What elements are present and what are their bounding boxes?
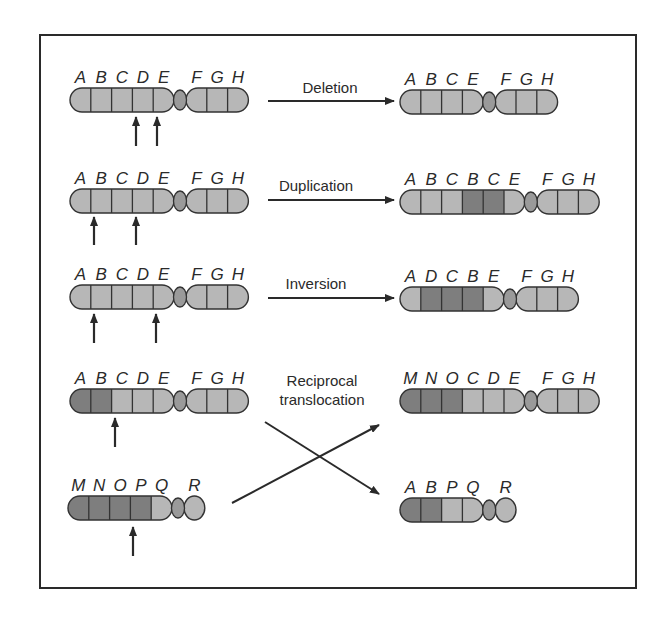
gene-label: E bbox=[158, 369, 170, 388]
gene-label: F bbox=[191, 265, 203, 284]
gene-label: F bbox=[191, 369, 203, 388]
chromosome-duplication-after: ABCBCEFGH bbox=[400, 170, 600, 214]
operation-label-inversion: Inversion bbox=[286, 275, 347, 292]
gene-label: E bbox=[509, 369, 521, 388]
gene-label: C bbox=[446, 267, 459, 286]
gene-label: F bbox=[542, 170, 554, 189]
gene-label: P bbox=[135, 476, 147, 495]
gene-label: A bbox=[404, 478, 416, 497]
chromosome-translocation-after-2: ABPQR bbox=[400, 478, 517, 522]
gene-label: N bbox=[425, 369, 438, 388]
gene-label: H bbox=[583, 369, 596, 388]
gene-label: M bbox=[71, 476, 86, 495]
gene-label: A bbox=[404, 267, 416, 286]
gene-label: G bbox=[520, 70, 533, 89]
gene-label: A bbox=[74, 68, 86, 87]
chromosome-duplication-before: ABCDEFGH bbox=[70, 169, 249, 213]
gene-label: R bbox=[188, 476, 200, 495]
gene-label: A bbox=[404, 70, 416, 89]
gene-label: D bbox=[137, 68, 149, 87]
gene-label: D bbox=[137, 169, 149, 188]
gene-label: F bbox=[500, 70, 512, 89]
gene-label: M bbox=[403, 369, 418, 388]
gene-label: O bbox=[445, 369, 458, 388]
break-arrow bbox=[136, 117, 157, 146]
row-reciprocal-translocation: ABCDEFGH Reciprocal translocation MNOPQR… bbox=[68, 369, 600, 556]
chromosome-translocation-after-1: MNOCDEFGH bbox=[400, 369, 600, 413]
break-arrow bbox=[94, 217, 136, 245]
crossing-arrow-down-icon bbox=[265, 422, 379, 494]
gene-label: C bbox=[446, 170, 459, 189]
gene-label: F bbox=[191, 68, 203, 87]
gene-label: E bbox=[467, 70, 479, 89]
operation-label-line-2: translocation bbox=[279, 391, 364, 408]
chromosome-translocation-before-1: ABCDEFGH bbox=[70, 369, 249, 413]
gene-label: B bbox=[467, 170, 478, 189]
gene-label: B bbox=[96, 68, 107, 87]
gene-label: E bbox=[158, 68, 170, 87]
gene-label: A bbox=[74, 369, 86, 388]
gene-label: H bbox=[232, 265, 245, 284]
rearrangement-diagram: ABCDEFGH Deletion ABCEFGH ABCDEFGH Dupli… bbox=[0, 0, 668, 621]
gene-label: A bbox=[74, 265, 86, 284]
crossing-arrow-up-icon bbox=[232, 425, 379, 503]
chromosome-inversion-after: ADCBEFGH bbox=[400, 267, 579, 311]
gene-label: B bbox=[426, 170, 437, 189]
gene-label: C bbox=[467, 369, 480, 388]
gene-label: H bbox=[232, 169, 245, 188]
operation-label-duplication: Duplication bbox=[279, 177, 353, 194]
gene-label: O bbox=[113, 476, 126, 495]
gene-label: G bbox=[211, 369, 224, 388]
gene-label: C bbox=[446, 70, 459, 89]
gene-label: G bbox=[211, 169, 224, 188]
gene-label: Q bbox=[466, 478, 479, 497]
gene-label: H bbox=[562, 267, 575, 286]
row-duplication: ABCDEFGH Duplication ABCBCEFGH bbox=[70, 169, 600, 245]
gene-label: B bbox=[426, 70, 437, 89]
gene-label: E bbox=[488, 267, 500, 286]
row-inversion: ABCDEFGH Inversion ADCBEFGH bbox=[70, 265, 579, 343]
operation-label-deletion: Deletion bbox=[302, 79, 357, 96]
gene-label: P bbox=[446, 478, 458, 497]
gene-label: B bbox=[96, 169, 107, 188]
gene-label: A bbox=[74, 169, 86, 188]
gene-label: D bbox=[487, 369, 499, 388]
gene-label: G bbox=[561, 170, 574, 189]
gene-label: B bbox=[96, 369, 107, 388]
gene-label: C bbox=[116, 68, 129, 87]
gene-label: H bbox=[232, 369, 245, 388]
chromosome-inversion-before: ABCDEFGH bbox=[70, 265, 249, 309]
gene-label: F bbox=[191, 169, 203, 188]
gene-label: B bbox=[467, 267, 478, 286]
gene-label: E bbox=[509, 170, 521, 189]
row-deletion: ABCDEFGH Deletion ABCEFGH bbox=[70, 68, 558, 146]
gene-label: G bbox=[211, 265, 224, 284]
break-arrow bbox=[94, 314, 156, 343]
gene-label: G bbox=[561, 369, 574, 388]
gene-label: D bbox=[137, 369, 149, 388]
gene-label: R bbox=[499, 478, 511, 497]
chromosome-deletion-after: ABCEFGH bbox=[400, 70, 558, 114]
operation-label-line-1: Reciprocal bbox=[287, 372, 358, 389]
chromosome-translocation-before-2: MNOPQR bbox=[68, 476, 205, 520]
gene-label: N bbox=[93, 476, 106, 495]
gene-label: C bbox=[116, 369, 129, 388]
gene-label: F bbox=[542, 369, 554, 388]
gene-label: F bbox=[521, 267, 533, 286]
gene-label: E bbox=[158, 169, 170, 188]
gene-label: E bbox=[158, 265, 170, 284]
gene-label: G bbox=[541, 267, 554, 286]
gene-label: G bbox=[211, 68, 224, 87]
gene-label: B bbox=[96, 265, 107, 284]
gene-label: C bbox=[487, 170, 500, 189]
chromosome-deletion-before: ABCDEFGH bbox=[70, 68, 249, 112]
gene-label: H bbox=[541, 70, 554, 89]
gene-label: C bbox=[116, 265, 129, 284]
gene-label: Q bbox=[155, 476, 168, 495]
gene-label: D bbox=[425, 267, 437, 286]
gene-label: H bbox=[232, 68, 245, 87]
gene-label: B bbox=[426, 478, 437, 497]
gene-label: H bbox=[583, 170, 596, 189]
gene-label: D bbox=[137, 265, 149, 284]
gene-label: C bbox=[116, 169, 129, 188]
